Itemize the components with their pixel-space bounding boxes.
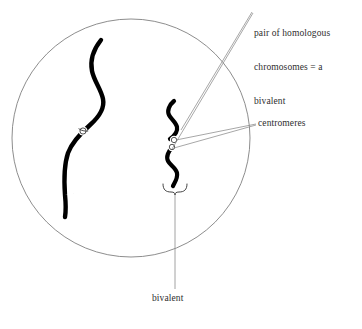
label-bivalent: bivalent bbox=[152, 293, 222, 304]
label-homologous-line2: chromosomes = a bbox=[254, 62, 358, 73]
label-centromeres: centromeres bbox=[258, 118, 358, 129]
label-homologous-line3: bivalent bbox=[254, 96, 358, 107]
figure-root: pair of homologous chromosomes = a bival… bbox=[0, 0, 362, 329]
label-homologous-line1: pair of homologous bbox=[254, 28, 358, 39]
cell-outline bbox=[12, 19, 250, 257]
label-homologous-chromosomes: pair of homologous chromosomes = a bival… bbox=[254, 5, 358, 130]
